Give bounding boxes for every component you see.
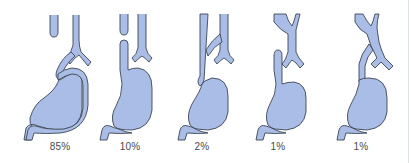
percentage-label: 1% (258, 141, 298, 152)
esophagus-trachea-stomach-illustration (80, 0, 170, 140)
esophagus-trachea-stomach-illustration (315, 0, 410, 140)
esophagus-trachea-stomach-illustration (160, 0, 250, 140)
percentage-label: 1% (341, 141, 381, 152)
percentage-label: 10% (110, 141, 150, 152)
percentage-label: 85% (40, 141, 80, 152)
percentage-label: 2% (182, 141, 222, 152)
